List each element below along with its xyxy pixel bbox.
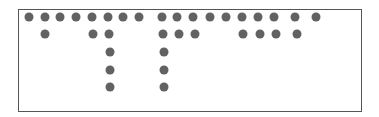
dot	[135, 13, 144, 22]
dot	[106, 83, 115, 92]
dot	[189, 13, 198, 22]
dot	[239, 30, 248, 39]
dot	[256, 30, 265, 39]
dot	[175, 30, 184, 39]
dot	[254, 13, 263, 22]
dot	[104, 13, 113, 22]
dot	[158, 13, 167, 22]
dot	[41, 30, 50, 39]
dot	[106, 48, 115, 57]
dot	[106, 66, 115, 75]
dot	[191, 30, 200, 39]
dot	[272, 30, 281, 39]
dot	[173, 13, 182, 22]
dot	[41, 13, 50, 22]
dot	[160, 66, 169, 75]
dot	[222, 13, 231, 22]
dot	[206, 13, 215, 22]
dot	[159, 30, 168, 39]
dot	[312, 13, 321, 22]
dot	[56, 13, 65, 22]
diagram-frame	[18, 9, 362, 112]
dot	[25, 13, 34, 22]
dot	[238, 13, 247, 22]
dot	[72, 13, 81, 22]
dot	[89, 30, 98, 39]
dot	[105, 30, 114, 39]
dot	[291, 13, 300, 22]
dot	[119, 13, 128, 22]
dot	[88, 13, 97, 22]
dot	[160, 83, 169, 92]
dot	[293, 30, 302, 39]
dot	[160, 48, 169, 57]
dot	[270, 13, 279, 22]
